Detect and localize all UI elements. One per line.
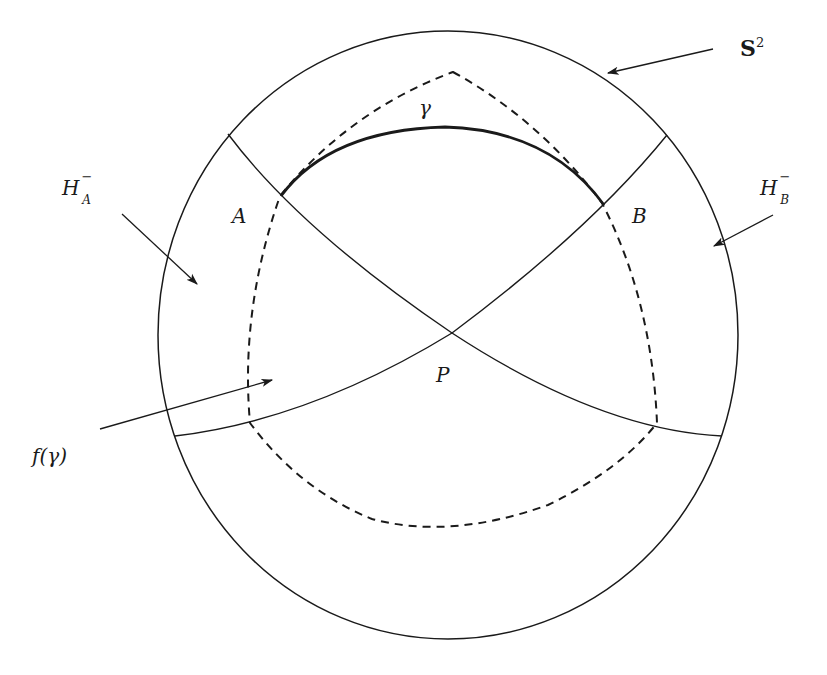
- label-hb-sub: B: [780, 193, 789, 207]
- great-circle-B: [175, 135, 667, 436]
- label-half-space-a: H−A: [62, 176, 99, 202]
- label-ha-sup: −: [81, 169, 92, 184]
- label-point-p: P: [436, 365, 449, 385]
- label-hb-base: H: [760, 176, 777, 200]
- great-circle-A: [228, 134, 722, 436]
- arrow-s2: [608, 49, 713, 73]
- label-hb-sup: −: [779, 169, 790, 184]
- label-sphere: S2: [740, 36, 764, 59]
- label-half-space-b: H−B: [760, 176, 797, 202]
- label-f-gamma: f(γ): [32, 446, 67, 466]
- sphere-diagram: S2 H−A H−B A B P γ f(γ): [0, 0, 827, 675]
- label-sphere-base: S: [740, 35, 756, 61]
- arrow-hb: [714, 215, 773, 246]
- label-ha-sub: A: [82, 193, 91, 207]
- label-point-a: A: [232, 206, 246, 226]
- label-sphere-exponent: 2: [756, 35, 764, 50]
- label-gamma: γ: [419, 98, 431, 118]
- label-ha-base: H: [62, 176, 79, 200]
- arrow-fgamma: [100, 380, 272, 429]
- curve-gamma: [281, 127, 604, 205]
- diagram-canvas: [0, 0, 827, 675]
- label-point-b: B: [632, 206, 647, 226]
- dashed-region: [248, 72, 657, 527]
- arrow-ha: [122, 214, 197, 284]
